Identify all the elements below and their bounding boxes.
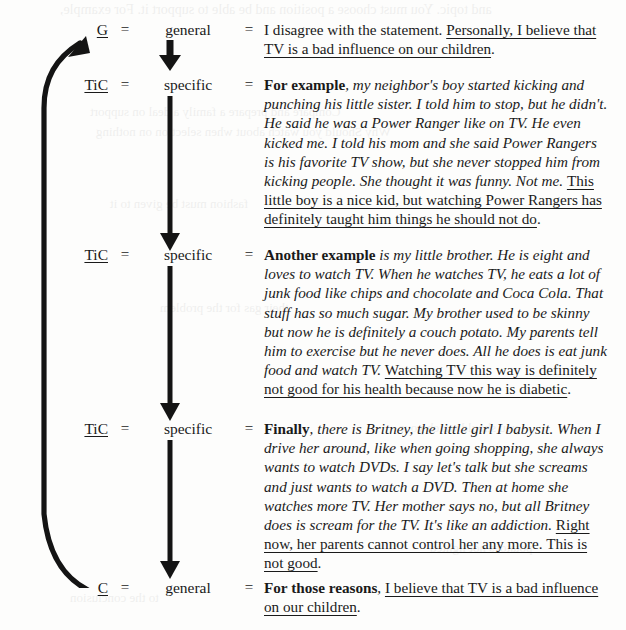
text-run-bold: For example <box>264 76 345 93</box>
row-level-label: specific <box>142 75 234 94</box>
equals-sign: = <box>234 578 264 596</box>
equals-sign: = <box>108 578 142 596</box>
row-code: TiC <box>0 245 108 264</box>
equals-sign: = <box>234 419 264 437</box>
row-text: Another example is my little brother. He… <box>264 245 626 399</box>
text-run-plain: , <box>377 579 385 596</box>
row-level-label: specific <box>142 245 234 264</box>
row-level-label: general <box>142 578 234 597</box>
equals-sign: = <box>108 419 142 437</box>
equals-sign: = <box>108 245 142 263</box>
text-run-bold: Another example <box>264 246 376 263</box>
text-run-plain: . <box>357 598 361 615</box>
row-code: TiC <box>0 75 108 94</box>
essay-structure-diagram: G = general = I disagree with the statem… <box>0 0 626 630</box>
structure-row-specific-2: TiC = specific = Another example is my l… <box>0 245 626 399</box>
row-text: For example, my neighbor's boy started k… <box>264 75 626 229</box>
row-code-label: C <box>98 579 108 596</box>
row-code-label: G <box>97 21 108 38</box>
row-level-label: specific <box>142 419 234 438</box>
text-run-bold: Finally <box>264 420 310 437</box>
structure-row-specific-3: TiC = specific = Finally, there is Britn… <box>0 419 626 573</box>
structure-row-general: G = general = I disagree with the statem… <box>0 20 626 58</box>
row-code: C <box>0 578 108 597</box>
row-code: TiC <box>0 419 108 438</box>
row-code-label: TiC <box>84 76 108 93</box>
row-code-label: TiC <box>84 246 108 263</box>
equals-sign: = <box>234 20 264 38</box>
text-run-plain: . <box>567 380 571 397</box>
text-run-plain: . <box>537 210 541 227</box>
row-text: I disagree with the statement. Personall… <box>264 20 626 58</box>
row-code: G <box>0 20 108 39</box>
equals-sign: = <box>234 75 264 93</box>
structure-row-conclusion: C = general = For those reasons, I belie… <box>0 578 626 616</box>
row-level-label: general <box>142 20 234 39</box>
row-text: For those reasons, I believe that TV is … <box>264 578 626 616</box>
text-run-plain: . <box>491 40 495 57</box>
row-code-label: TiC <box>84 420 108 437</box>
text-run-bold: For those reasons <box>264 579 377 596</box>
text-run-italic: , there is Britney, the little girl I ba… <box>264 420 603 533</box>
equals-sign: = <box>108 75 142 93</box>
text-run-italic: is my little brother. He is eight and lo… <box>264 246 607 378</box>
equals-sign: = <box>234 245 264 263</box>
text-run-plain: I disagree with the statement. <box>264 21 446 38</box>
structure-row-specific-1: TiC = specific = For example, my neighbo… <box>0 75 626 229</box>
equals-sign: = <box>108 20 142 38</box>
row-text: Finally, there is Britney, the little gi… <box>264 419 626 573</box>
text-run-plain: . <box>318 554 322 571</box>
